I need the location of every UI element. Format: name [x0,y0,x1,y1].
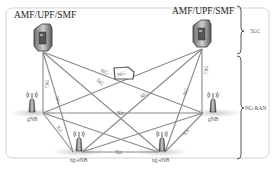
server-icon [193,20,211,47]
ngenb-right-label: ng-eNB [152,157,170,163]
label-xn: Xn [115,149,122,155]
ng-cloud: NG [114,67,134,79]
group-label-ng-ran: NG-RAN [245,105,266,111]
label-ng: NG [203,66,209,74]
group-label-5gc: 5GC [250,28,261,34]
gnb-right-label: gNB [208,116,219,122]
label-ng: NG [44,80,50,88]
label-xn: Xn [117,110,124,116]
core-node-label-left: AMF/UPF/SMF [14,10,76,20]
server-icon [34,24,52,51]
ngenb-left-label: ng-eNB [70,157,88,163]
core-node-label-right: AMF/UPF/SMF [172,6,234,16]
network-architecture-diagram: NG NG NG NG NG NG NG Xn Xn Xn Xn NG AMF/… [0,0,275,174]
gnb-left-label: gNB [27,116,38,122]
